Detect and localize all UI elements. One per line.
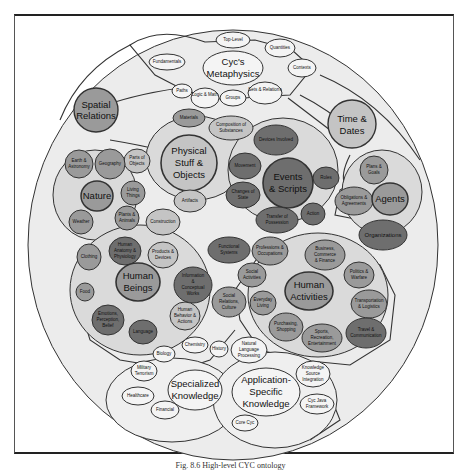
label-transport: Transportation	[355, 298, 384, 303]
label-emotions-3: Belief	[102, 323, 114, 328]
label-weather: Weather	[73, 219, 90, 224]
label-human-activities-2: Activities	[290, 291, 328, 302]
label-earth: Earth &	[71, 158, 86, 163]
label-healthcare: Healthcare	[127, 393, 149, 398]
label-events: Events	[273, 171, 302, 182]
label-travel: Travel &	[358, 327, 375, 332]
label-behavior-2: Behavior &	[174, 313, 196, 318]
label-info-4: Works	[187, 291, 200, 296]
label-metaphysics-2: Metaphysics	[207, 68, 260, 79]
label-organizations: Organizations	[364, 232, 401, 238]
label-logic-math: Logic & Math	[192, 92, 219, 97]
label-transfer: Transfer of	[266, 214, 288, 219]
label-everyday: Everyday	[254, 297, 274, 302]
label-language: Language	[133, 329, 154, 334]
label-purchasing: Purchasing,	[274, 321, 298, 326]
label-parts: Parts of	[129, 155, 145, 160]
label-anatomy-2: Anatomy &	[114, 248, 136, 253]
label-construction: Construction	[150, 219, 176, 224]
label-anatomy: Human	[118, 242, 133, 247]
label-physical-3: Objects	[173, 169, 205, 180]
label-artifacts: Artifacts	[182, 198, 199, 203]
label-politics-2: Warfare	[351, 275, 367, 280]
label-plants: Plants &	[119, 212, 136, 217]
label-top-level: Top-Level	[223, 37, 243, 42]
label-application-2: Specific	[249, 386, 283, 397]
label-parts-2: Objects	[129, 161, 145, 166]
label-devices: Devices Involved	[259, 137, 294, 142]
label-contexts: Contexts	[293, 65, 312, 70]
label-financial: Financial	[156, 407, 174, 412]
label-human-activities: Human	[294, 279, 325, 290]
figure-caption: Fig. 8.6 High-level CYC ontology	[0, 461, 461, 470]
label-ksi-3: Integration	[302, 377, 324, 382]
node-sets-relations	[248, 82, 282, 104]
label-physical: Physical	[171, 145, 206, 156]
label-living-2: Things	[126, 193, 140, 198]
label-roles: Roles	[320, 175, 332, 180]
label-composition: Composition of	[216, 122, 247, 127]
label-core-cyc: Core Cyc	[236, 420, 256, 425]
label-products: Products &	[152, 249, 174, 254]
label-earth-2: Astronomy	[68, 164, 90, 169]
label-fundamentals: Fundamentals	[153, 59, 182, 64]
label-plants-2: Animals	[119, 218, 136, 223]
label-sports-3: Entertainment	[308, 341, 337, 346]
label-biology: Biology	[157, 351, 173, 356]
label-spatial-2: Relations	[76, 110, 116, 121]
label-nlp-3: Processing	[238, 353, 261, 358]
label-composition-2: Substances	[219, 128, 243, 133]
label-geography: Geography	[99, 161, 122, 166]
label-physical-2: Stuff &	[175, 157, 204, 168]
label-social-relations-3: Culture	[222, 305, 237, 310]
label-ksi-2: Source	[306, 371, 321, 376]
label-movement: Movement	[234, 163, 256, 168]
label-products-2: Devices	[155, 255, 172, 260]
label-specialized: Specialized	[171, 378, 220, 389]
label-application: Application-	[241, 374, 291, 385]
label-info: Information	[182, 273, 205, 278]
label-paths: Paths	[176, 88, 188, 93]
label-cyc-java: Cyc Java	[308, 398, 327, 403]
label-sports: Sports,	[315, 329, 329, 334]
label-nlp: Natural	[242, 341, 257, 346]
label-behavior: Human	[178, 307, 193, 312]
label-travel-2: Communication	[350, 333, 382, 338]
label-military-2: Terrorism	[135, 371, 154, 376]
label-business: Business,	[315, 246, 335, 251]
label-cyc-java-2: Framework	[306, 404, 329, 409]
label-purchasing-2: Shopping	[276, 327, 296, 332]
label-politics: Politics &	[350, 269, 369, 274]
label-professions-2: Occupations	[257, 251, 283, 256]
label-nlp-2: Language	[239, 347, 260, 352]
label-specialized-2: Knowledge	[171, 390, 218, 401]
label-military: Military	[137, 365, 152, 370]
label-emotions: Emotions,	[98, 311, 118, 316]
label-obligations: Obligations &	[341, 195, 368, 200]
label-time-2: Dates	[340, 125, 365, 136]
label-sports-2: Recreation,	[310, 335, 333, 340]
label-action: Action	[307, 211, 320, 216]
label-quantities: Quantities	[270, 45, 291, 50]
label-food: Food	[80, 289, 91, 294]
node-logic-math	[191, 88, 219, 108]
label-plans: Plans &	[366, 164, 382, 169]
label-spatial: Spatial	[81, 99, 110, 110]
label-social-activities-2: Activities	[243, 275, 262, 280]
label-transport-2: & Logistics	[358, 304, 381, 309]
label-info-2: &	[191, 279, 194, 284]
label-info-3: Conceptual	[182, 285, 205, 290]
label-history: History	[212, 346, 227, 351]
label-human-beings-2: Beings	[123, 282, 152, 293]
label-business-3: & Finance	[315, 258, 336, 263]
label-changes-2: State	[238, 195, 249, 200]
label-sets-relations: Sets & Relations	[248, 87, 282, 92]
label-human-beings: Human	[123, 270, 154, 281]
label-living: Living	[127, 187, 139, 192]
label-materials: Materials	[180, 115, 199, 120]
label-groups: Groups	[226, 95, 242, 100]
label-changes: Changes of	[231, 189, 255, 194]
label-anatomy-3: Physiology	[114, 254, 137, 259]
label-time: Time &	[337, 113, 367, 124]
label-everyday-2: Living	[257, 303, 269, 308]
